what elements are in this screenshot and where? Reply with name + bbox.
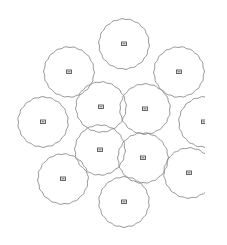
sensor-node: [120, 84, 170, 135]
sensor-node: [99, 177, 149, 228]
device-icon: [67, 70, 72, 74]
sensor-node: [164, 148, 215, 199]
sensor-node: [99, 19, 150, 70]
coverage-diagram: [0, 0, 227, 245]
sensor-node: [118, 133, 169, 183]
sensor-node: [44, 47, 95, 97]
device-icon: [202, 120, 207, 124]
device-icon: [41, 120, 46, 124]
device-icon: [141, 156, 146, 160]
sensor-node: [38, 154, 89, 205]
device-icon: [143, 107, 148, 111]
device-icon: [61, 177, 66, 181]
device-icon: [99, 105, 104, 109]
device-icon: [98, 148, 103, 152]
nodes-layer: [18, 19, 227, 228]
device-icon: [177, 70, 182, 74]
device-icon: [187, 171, 192, 175]
device-icon: [122, 42, 127, 46]
sensor-node: [18, 97, 68, 148]
sensor-node: [179, 97, 227, 148]
device-icon: [122, 200, 127, 204]
sensor-node: [76, 82, 127, 133]
